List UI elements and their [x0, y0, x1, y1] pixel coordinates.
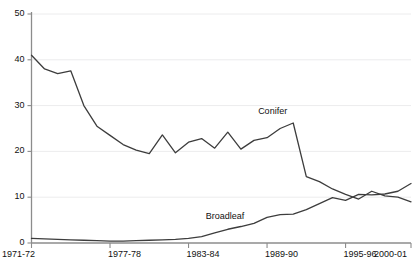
series-annotation-conifer: Conifer	[258, 107, 287, 116]
x-tick-label: 2000-01	[374, 250, 407, 259]
y-tick-label: 40	[0, 55, 25, 64]
series-annotation-broadleaf: Broadleaf	[206, 212, 245, 221]
x-tick-label: 1989-90	[265, 250, 298, 259]
y-tick-label: 30	[0, 101, 25, 110]
y-tick-label: 0	[0, 238, 25, 247]
y-tick-label: 10	[0, 192, 25, 201]
y-tick-label: 20	[0, 146, 25, 155]
x-tick-label: 1995-96	[344, 250, 377, 259]
line-chart: 01020304050 1971-721977-781983-841989-90…	[0, 0, 417, 262]
series-line-conifer	[32, 55, 412, 202]
x-tick-label: 1971-72	[2, 250, 35, 259]
x-tick-label: 1977-78	[108, 250, 141, 259]
chart-plot-area	[0, 0, 417, 262]
gridlines	[32, 14, 412, 197]
x-tick-label: 1983-84	[187, 250, 220, 259]
y-tick-label: 50	[0, 9, 25, 18]
